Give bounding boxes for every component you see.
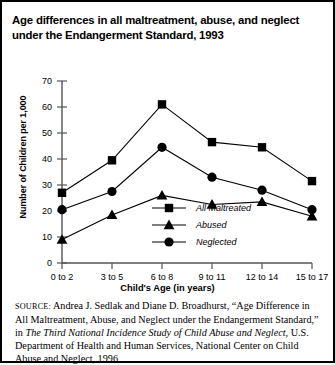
data-point-triangle [107, 210, 118, 220]
data-point-circle [57, 205, 66, 214]
y-axis-tick-label: 60 [42, 102, 52, 112]
data-point-triangle [157, 190, 168, 200]
y-axis-tick-label: 20 [42, 206, 52, 216]
y-axis-tick-label: 50 [42, 128, 52, 138]
x-axis-tick-label: 0 to 2 [51, 272, 74, 282]
legend-marker-triangle [164, 220, 175, 230]
data-point-square [258, 143, 266, 151]
page-title: Age differences in all maltreatment, abu… [12, 13, 322, 43]
data-point-square [158, 100, 166, 108]
source-text-italic: The Third National Incidence Study of Ch… [25, 327, 285, 338]
data-point-circle [207, 173, 216, 182]
data-point-circle [307, 205, 316, 214]
y-axis-title: Number of Children per 1,000 [18, 82, 28, 232]
data-point-triangle [257, 197, 268, 207]
x-axis-tick-label: 3 to 5 [101, 272, 124, 282]
legend-marker-circle [164, 237, 173, 246]
data-point-triangle [57, 234, 68, 244]
legend-label-triangle[interactable]: Abused [195, 220, 228, 230]
legend-label-circle[interactable]: Neglected [196, 237, 238, 247]
y-axis-tick-label: 40 [42, 154, 52, 164]
line-chart-svg: 0102030405060700 to 23 to 56 to 89 to 11… [2, 60, 333, 298]
y-axis-tick-label: 70 [42, 76, 52, 86]
data-point-square [108, 156, 116, 164]
x-axis-title: Child's Age (in years) [2, 283, 333, 293]
x-axis-tick-label: 6 to 8 [151, 272, 174, 282]
data-point-circle [157, 143, 166, 152]
x-axis-tick-label: 15 to 17 [296, 272, 329, 282]
legend-marker-square [165, 204, 173, 212]
data-point-circle [257, 186, 266, 195]
chart-plot-area: Number of Children per 1,000 01020304050… [2, 60, 333, 298]
x-axis-tick-label: 12 to 14 [246, 272, 279, 282]
series-line-triangle [62, 195, 312, 239]
source-label: SOURCE: [15, 302, 51, 311]
series-line-square [62, 104, 312, 192]
y-axis-tick-label: 0 [47, 258, 52, 268]
data-point-square [208, 138, 216, 146]
source-note: SOURCE: Andrea J. Sedlak and Diane D. Br… [15, 299, 321, 365]
data-point-square [58, 189, 66, 197]
legend-label-square[interactable]: All Maltreated [195, 203, 252, 213]
data-point-square [308, 177, 316, 185]
y-axis-tick-label: 30 [42, 180, 52, 190]
data-point-circle [107, 187, 116, 196]
x-axis-tick-label: 9 to 11 [199, 272, 226, 282]
y-axis-tick-label: 10 [42, 232, 52, 242]
